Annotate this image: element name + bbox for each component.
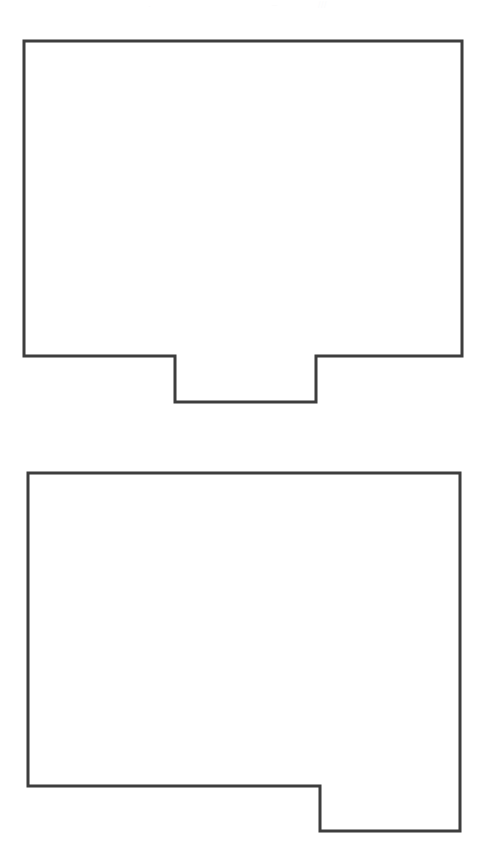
shape-top-outline[interactable]	[24, 41, 462, 402]
shape-bottom-outline[interactable]	[28, 473, 460, 831]
shapes-drawing	[0, 0, 488, 842]
page-canvas: · – ///	[0, 0, 488, 842]
